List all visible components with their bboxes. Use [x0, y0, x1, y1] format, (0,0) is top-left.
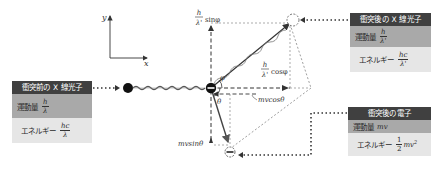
momentum-row: 運動量 h λ': [350, 26, 431, 47]
info-box-before-photon: 衝突前の X 線光子 運動量 h λ エネルギー hc λ: [12, 81, 92, 143]
label-angle-theta: θ: [217, 98, 222, 106]
energy-fraction: 1 2: [396, 136, 402, 153]
momentum-row: 運動量 h λ: [12, 94, 92, 118]
svg-text:sinφ: sinφ: [205, 16, 220, 24]
momentum-row: 運動量 mv: [348, 120, 431, 133]
label-electron-x: mvcosθ: [258, 96, 285, 104]
energy-fraction: hc λ': [398, 51, 408, 68]
momentum-value: mv: [377, 123, 388, 131]
box-title: 衝突前の X 線光子: [12, 81, 92, 94]
label-angle-phi: φ: [220, 74, 225, 82]
svg-text:λ': λ': [195, 19, 202, 27]
y-axis-label: y: [101, 13, 107, 22]
momentum-label: 運動量: [17, 101, 38, 112]
energy-label: エネルギー: [21, 125, 56, 136]
momentum-fraction: h λ: [42, 98, 49, 115]
svg-text:h: h: [197, 9, 202, 17]
scattered-electron-vector: [211, 88, 228, 142]
svg-text:λ': λ': [261, 71, 268, 79]
incident-photon-icon: [123, 83, 133, 93]
scattered-photon-icon: [287, 14, 299, 26]
x-axis-label: x: [144, 59, 149, 68]
momentum-label: 運動量: [353, 121, 374, 132]
info-box-after-photon: 衝突後の X 線光子 運動量 h λ' エネルギー hc λ': [350, 13, 431, 72]
scattered-electron-icon: [225, 147, 235, 157]
box-title: 衝突後の X 線光子: [350, 13, 431, 26]
pointer-after-electron: [243, 113, 347, 155]
info-box-after-electron: 衝突後の電子 運動量 mv エネルギー 1 2 mv2: [348, 107, 431, 156]
momentum-fraction: h λ': [380, 28, 387, 45]
electron-icon: [206, 83, 216, 93]
label-photon-x: h λ' cosφ: [261, 61, 288, 79]
energy-value: mv2: [403, 139, 417, 149]
energy-label: エネルギー: [359, 54, 394, 65]
energy-row: エネルギー hc λ': [350, 47, 431, 72]
compton-scattering-diagram: y x: [0, 0, 436, 170]
axes-icon: y x: [101, 13, 149, 68]
energy-row: エネルギー hc λ: [12, 118, 92, 143]
label-photon-y: h λ' sinφ: [195, 9, 221, 27]
box-title: 衝突後の電子: [348, 107, 431, 120]
svg-text:cosφ: cosφ: [271, 68, 288, 76]
momentum-label: 運動量: [355, 31, 376, 42]
energy-fraction: hc λ: [60, 122, 70, 139]
energy-label: エネルギー: [357, 139, 392, 150]
energy-row: エネルギー 1 2 mv2: [348, 133, 431, 156]
label-electron-y: mvsinθ: [178, 140, 204, 148]
svg-text:h: h: [263, 61, 268, 69]
